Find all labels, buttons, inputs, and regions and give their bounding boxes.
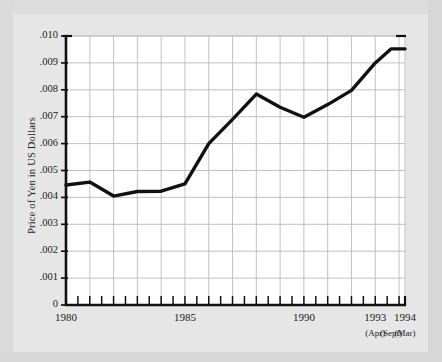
x-tick-label: 1994 <box>383 311 427 323</box>
y-tick-label: .001 <box>24 271 58 282</box>
y-tick-label: .008 <box>24 83 58 94</box>
y-tick-label: .002 <box>24 244 58 255</box>
chart-figure: Price of Yen in US Dollars .010.009.008.… <box>0 0 442 362</box>
y-tick-label: .005 <box>24 164 58 175</box>
y-tick-label: .004 <box>24 190 58 201</box>
x-sub-label: (Mar) <box>385 328 425 338</box>
y-tick-label: .010 <box>24 29 58 40</box>
line-chart <box>0 0 442 362</box>
y-tick-label: .009 <box>24 56 58 67</box>
x-tick-label: 1990 <box>282 311 326 323</box>
x-tick-label: 1980 <box>44 311 88 323</box>
y-tick-label: 0 <box>24 298 58 309</box>
y-tick-label: .007 <box>24 110 58 121</box>
y-tick-label: .003 <box>24 217 58 228</box>
y-tick-label: .006 <box>24 137 58 148</box>
x-tick-label: 1985 <box>163 311 207 323</box>
